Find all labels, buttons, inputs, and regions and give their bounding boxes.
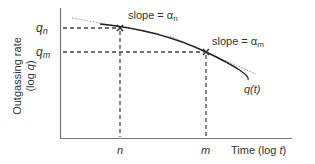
outgassing-diagram: qn qm slope = αn slope = αm q(t) n m Tim… <box>0 0 315 164</box>
curve-label: q(t) <box>244 83 261 95</box>
label-m: m <box>201 144 210 156</box>
svg-text:(log q): (log q) <box>24 60 36 91</box>
slope-label-m: slope = αm <box>212 35 264 49</box>
label-qn: qn <box>36 21 48 36</box>
slope-label-n: slope = αn <box>128 9 178 23</box>
svg-text:Outgassing rate: Outgassing rate <box>11 37 23 115</box>
label-n: n <box>117 144 123 156</box>
y-axis-label: Outgassing rate (log q) <box>11 37 36 115</box>
label-qm: qm <box>36 45 51 60</box>
x-axis-label: Time (log t) <box>231 144 286 156</box>
